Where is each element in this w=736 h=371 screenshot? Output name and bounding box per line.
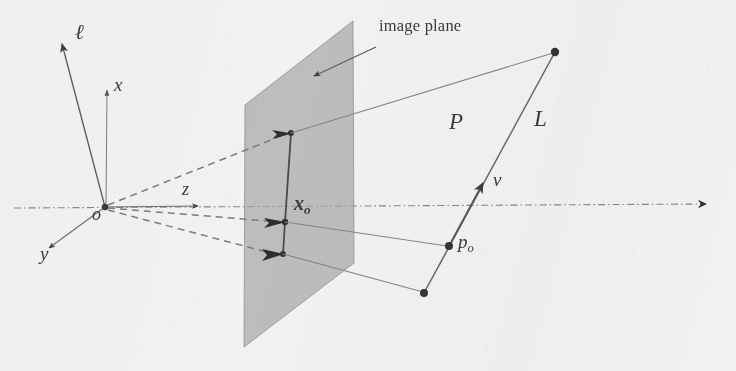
origin-point bbox=[102, 204, 108, 210]
label-plane-P: P bbox=[449, 110, 463, 133]
label-image-point-symbol: x bbox=[294, 192, 304, 214]
label-y-axis: y bbox=[40, 244, 48, 263]
label-image-plane-callout: image plane bbox=[379, 18, 461, 35]
label-origin: o bbox=[92, 205, 101, 223]
line-L-segment bbox=[424, 52, 555, 293]
line-L-bottom-endpoint bbox=[420, 289, 428, 297]
image-plane bbox=[244, 21, 354, 347]
image-plane-shape bbox=[244, 21, 354, 347]
label-line-L: L bbox=[534, 107, 547, 130]
label-direction-v: v bbox=[493, 170, 501, 189]
ell-axis-line bbox=[62, 44, 105, 207]
z-axis-line bbox=[105, 206, 198, 207]
label-image-point-subscript: o bbox=[304, 202, 311, 217]
line-L-top-endpoint bbox=[551, 48, 559, 56]
label-x-axis: x bbox=[114, 75, 122, 94]
label-base-point-subscript: o bbox=[468, 241, 474, 255]
label-image-point-xo: xo bbox=[294, 193, 311, 216]
figure-root: ℓ x y z o image plane P L v po xo bbox=[0, 0, 736, 371]
x-axis-line bbox=[106, 90, 107, 207]
coordinate-axes bbox=[49, 44, 198, 248]
label-z-axis: z bbox=[182, 180, 189, 198]
label-ell-axis: ℓ bbox=[75, 22, 84, 43]
label-base-point-symbol: p bbox=[458, 231, 468, 252]
label-base-point-po: po bbox=[458, 232, 474, 254]
base-point-po bbox=[445, 242, 453, 250]
line-L bbox=[420, 48, 559, 297]
diagram-canvas bbox=[0, 0, 736, 371]
